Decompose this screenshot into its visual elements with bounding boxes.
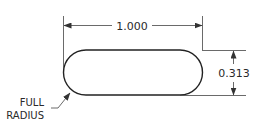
radius-leader-line <box>58 93 70 108</box>
radius-callout-line1: FULL <box>20 97 45 108</box>
slot-outline <box>64 50 203 95</box>
width-dimension-label: 1.000 <box>116 20 148 33</box>
radius-callout-line2: RADIUS <box>6 110 44 121</box>
height-dimension-label: 0.313 <box>218 67 250 80</box>
technical-drawing: 1.000 0.313 FULL RADIUS <box>0 0 254 124</box>
